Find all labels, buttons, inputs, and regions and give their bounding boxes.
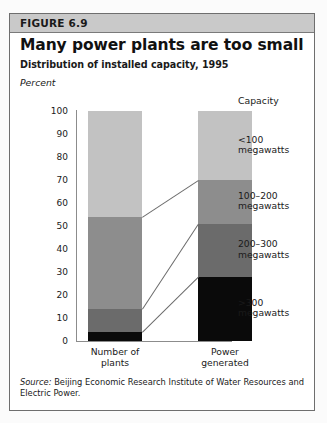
leader-line — [142, 180, 199, 218]
x-axis-label-line: plants — [68, 357, 162, 368]
legend-label-line: megawatts — [238, 308, 289, 319]
y-axis-tick-label: 80 — [18, 152, 68, 162]
bar-segment — [88, 309, 142, 332]
y-axis-tick-label: 70 — [18, 175, 68, 185]
x-axis-category-label: Powergenerated — [178, 346, 272, 368]
bar-number-of-plants — [88, 111, 142, 341]
legend-label-line: megawatts — [238, 250, 289, 261]
bar-segment — [88, 217, 142, 309]
source-label: Source: — [20, 377, 51, 387]
leader-line — [142, 277, 199, 333]
legend-item: 100–200megawatts — [238, 191, 289, 212]
y-axis-tick-label: 60 — [18, 198, 68, 208]
y-axis-tick-label: 0 — [18, 336, 68, 346]
legend-item: >300megawatts — [238, 298, 289, 319]
x-axis-line — [76, 341, 232, 342]
y-axis-tick-label: 20 — [18, 290, 68, 300]
x-axis-label-line: Number of — [68, 346, 162, 357]
x-axis-category-label: Number ofplants — [68, 346, 162, 368]
legend-item: 200–300megawatts — [238, 239, 289, 260]
figure-container: FIGURE 6.9 Many power plants are too sma… — [9, 13, 315, 411]
y-axis-tick-label: 50 — [18, 221, 68, 231]
x-axis-label-line: Power — [178, 346, 272, 357]
bar-segment — [88, 111, 142, 217]
source-text: Beijing Economic Research Institute of W… — [20, 377, 304, 398]
y-axis-tick-label: 30 — [18, 267, 68, 277]
y-axis-tick-label: 10 — [18, 313, 68, 323]
y-axis-tick-label: 40 — [18, 244, 68, 254]
legend-label-line: megawatts — [238, 145, 289, 156]
plot-area: 0102030405060708090100Number ofplantsPow… — [10, 14, 314, 410]
legend-label-line: megawatts — [238, 201, 289, 212]
bar-segment — [88, 332, 142, 341]
legend-item: <100megawatts — [238, 135, 289, 156]
y-axis-line — [76, 110, 77, 342]
y-axis-tick-label: 100 — [18, 106, 68, 116]
x-axis-label-line: generated — [178, 357, 272, 368]
y-axis-tick-label: 90 — [18, 129, 68, 139]
leader-line — [142, 224, 199, 310]
source-note: Source: Beijing Economic Research Instit… — [20, 377, 306, 398]
